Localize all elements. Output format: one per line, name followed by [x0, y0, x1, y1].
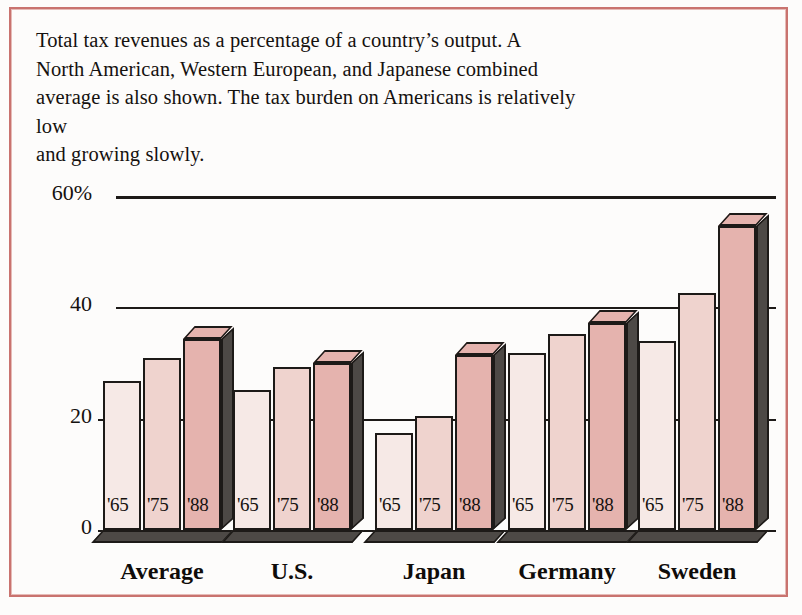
group-base-us	[221, 530, 364, 543]
bar-side-face-us	[351, 351, 364, 530]
bar-era-label-germany-75: '75	[552, 494, 584, 516]
chart-figure: Total tax revenues as a percentage of a …	[0, 0, 802, 615]
bar-era-label-japan-65: '65	[379, 494, 411, 516]
bar-era-label-average-75: '75	[147, 494, 179, 516]
y-axis-label-40: 40	[20, 291, 92, 317]
group-base-germany	[496, 530, 639, 543]
gridline-40	[116, 307, 776, 309]
group-label-sweden: Sweden	[616, 558, 778, 585]
gridline-60	[116, 196, 776, 199]
group-base-average	[91, 530, 234, 543]
bar-era-label-us-88: '88	[317, 494, 349, 516]
bar-chart-plot: 0204060%'65'75'88Average'65'75'88U.S.'65…	[0, 0, 802, 615]
bar-era-label-us-75: '75	[277, 494, 309, 516]
bar-era-label-germany-65: '65	[512, 494, 544, 516]
bar-era-label-sweden-75: '75	[682, 494, 714, 516]
bar-era-label-us-65: '65	[237, 494, 269, 516]
bar-side-face-japan	[493, 343, 506, 529]
bar-era-label-japan-88: '88	[459, 494, 491, 516]
bar-era-label-sweden-88: '88	[722, 494, 754, 516]
bar-era-label-sweden-65: '65	[642, 494, 674, 516]
group-base-sweden	[626, 530, 769, 543]
bar-era-label-average-65: '65	[107, 494, 139, 516]
y-axis-label-60pct: 60%	[20, 180, 92, 206]
bar-era-label-average-88: '88	[187, 494, 219, 516]
group-label-us: U.S.	[211, 558, 373, 585]
bar-era-label-germany-88: '88	[592, 494, 624, 516]
y-axis-label-20: 20	[20, 403, 92, 429]
y-axis-label-0: 0	[20, 514, 92, 540]
bar-side-face-sweden	[756, 214, 769, 530]
bar-sweden-88[interactable]	[718, 226, 756, 530]
bar-era-label-japan-75: '75	[419, 494, 451, 516]
group-base-japan	[363, 530, 506, 543]
